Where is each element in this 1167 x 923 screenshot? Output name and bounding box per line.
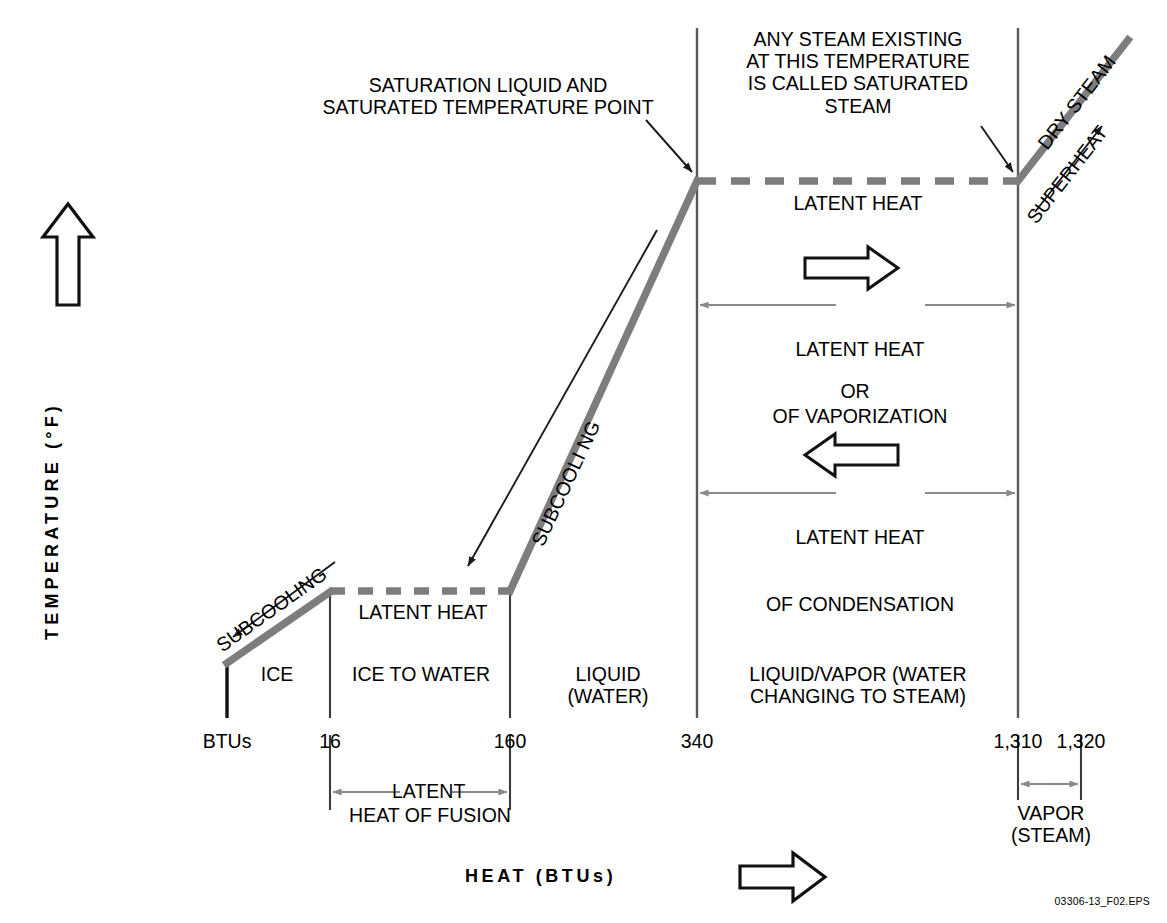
curve-leader-lines [233,120,1102,637]
phase-label-ice-to-water: ICE TO WATER [335,663,507,685]
callout-saturated-steam: ANY STEAM EXISTING AT THIS TEMPERATURE I… [708,28,1008,117]
tick-label-1320: 1,320 [1030,730,1132,752]
dimension-label-condensation-line1: LATENT HEAT [755,526,965,548]
tick-label-160: 160 [468,730,552,752]
leader-saturation-point [646,120,692,172]
steam-heat-diagram: TEMPERATURE (°F) HEAT (BTUs) BTUs 16 160… [0,0,1167,923]
dimension-label-condensation: LATENT HEAT OF CONDENSATION [755,482,965,660]
phase-label-liquid-vapor: LIQUID/VAPOR (WATER CHANGING TO STEAM) [700,663,1016,707]
y-axis-title: TEMPERATURE (°F) [42,402,63,640]
figure-id-label: 03306-13_F02.EPS [930,896,1150,908]
callout-saturation-point: SATURATION LIQUID AND SATURATED TEMPERAT… [288,74,688,118]
dimension-label-vaporization-line2: OF VAPORIZATION [760,405,960,427]
dimension-label-vaporization-line1: LATENT HEAT [760,338,960,360]
dimension-lines [333,305,1078,792]
origin-tick-label: BTUs [177,730,277,752]
heating-curve [227,40,1128,663]
y-axis-direction-arrow-icon [43,204,93,305]
phase-label-ice: ICE [232,663,322,685]
plateau-label-fusion: LATENT HEAT [332,601,514,623]
or-label: OR [810,380,900,402]
x-axis-direction-arrow-icon [740,853,825,901]
dimension-label-condensation-line2: OF CONDENSATION [755,593,965,615]
tick-label-16: 16 [290,730,370,752]
tick-label-340: 340 [655,730,739,752]
x-axis-title: HEAT (BTUs) [465,866,616,887]
phase-label-liquid-water: LIQUID (WATER) [523,663,693,707]
leader-saturated-steam [981,126,1013,172]
dimension-label-fusion-line2: HEAT OF FUSION [330,804,530,826]
vaporization-direction-arrow-icon [805,247,898,289]
plateau-label-vaporization: LATENT HEAT [768,192,948,214]
phase-label-vapor-steam: VAPOR (STEAM) [990,802,1112,846]
dimension-label-fusion-line1: LATENT [392,780,462,802]
